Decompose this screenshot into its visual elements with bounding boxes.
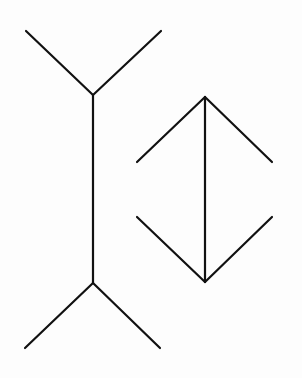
fin-line — [137, 97, 205, 162]
inward-fins-figure — [137, 97, 272, 282]
fin-line — [205, 97, 272, 162]
outward-fins-figure — [25, 31, 161, 348]
fin-line — [25, 283, 93, 348]
fin-line — [205, 217, 272, 282]
muller-lyer-diagram — [0, 0, 302, 378]
diagram-svg — [0, 0, 302, 378]
fin-line — [26, 31, 93, 95]
fin-line — [93, 31, 161, 95]
fin-line — [137, 217, 205, 282]
fin-line — [93, 283, 160, 348]
